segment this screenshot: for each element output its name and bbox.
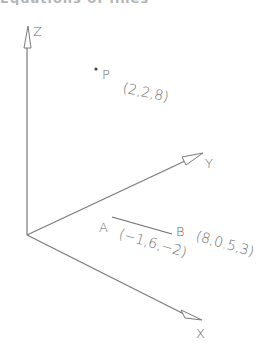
y-axis-arrowhead-icon	[182, 153, 203, 165]
x-axis-label: X	[196, 326, 205, 341]
point-a-label: A	[99, 220, 108, 235]
point-p-dot-icon	[94, 67, 97, 70]
point-p-label: P	[102, 67, 110, 82]
point-p-coords: (2,2,8)	[121, 79, 170, 104]
segment-ab: A (−1,6,−2) B (8,0.5,3)	[99, 217, 256, 260]
z-axis: Z	[24, 24, 42, 235]
z-axis-arrowhead-icon	[24, 26, 31, 48]
point-b-coords: (8,0.5,3)	[194, 228, 256, 260]
point-b-label: B	[176, 224, 185, 239]
y-axis: Y	[27, 153, 213, 235]
3d-coordinate-diagram: Z Y X P (2,2,8) A (−1,6,−2) B (8,0.5,3)	[0, 0, 266, 355]
point-p: P (2,2,8)	[94, 67, 170, 105]
x-axis-arrowhead-icon	[181, 310, 202, 320]
z-axis-label: Z	[33, 24, 42, 39]
y-axis-label: Y	[205, 156, 213, 171]
